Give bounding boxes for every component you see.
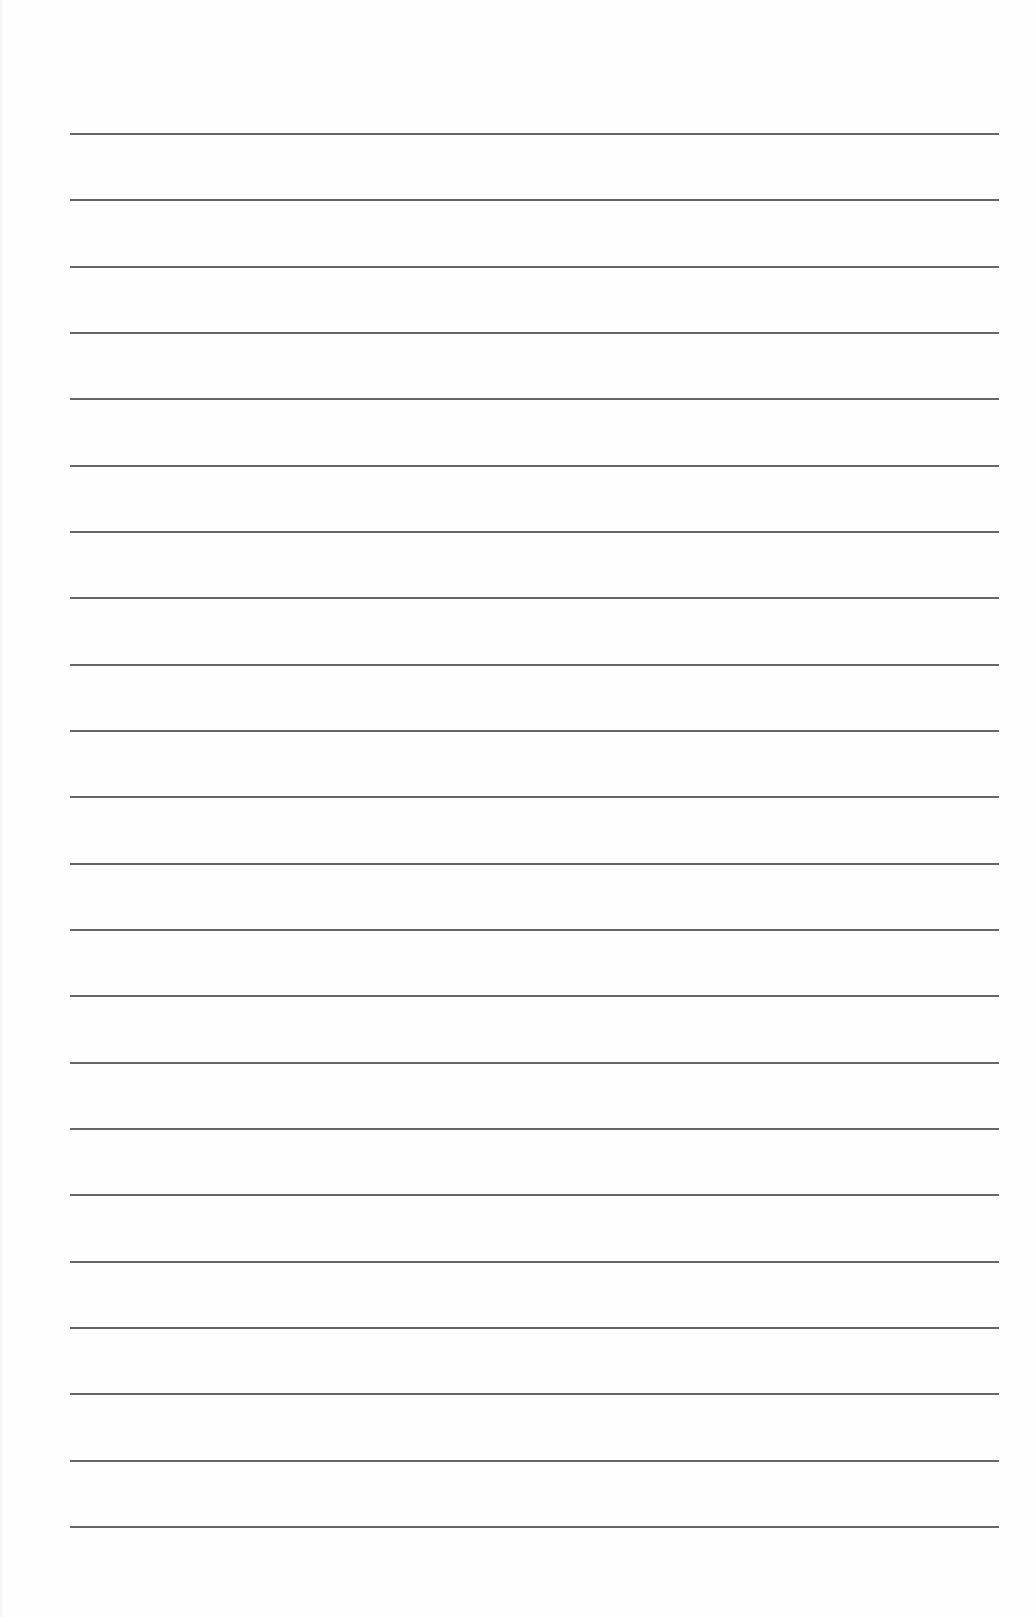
ruled-line [70, 266, 999, 268]
ruled-line [70, 1194, 999, 1196]
ruled-line [70, 1526, 999, 1528]
ruled-line [70, 796, 999, 798]
lined-paper-page [0, 0, 1036, 1617]
ruled-line [70, 332, 999, 334]
ruled-line [70, 531, 999, 533]
ruled-line [70, 664, 999, 666]
ruled-line [70, 1393, 999, 1395]
left-edge-shadow [0, 0, 4, 1617]
ruled-line [70, 1128, 999, 1130]
ruled-line [70, 133, 999, 135]
ruled-line [70, 1327, 999, 1329]
ruled-line [70, 1460, 999, 1462]
ruled-line [70, 199, 999, 201]
ruled-line [70, 995, 999, 997]
ruled-line [70, 398, 999, 400]
ruled-line [70, 1062, 999, 1064]
ruled-line [70, 465, 999, 467]
ruled-line [70, 863, 999, 865]
ruled-line [70, 730, 999, 732]
ruled-line [70, 929, 999, 931]
ruled-line [70, 1261, 999, 1263]
ruled-line [70, 597, 999, 599]
